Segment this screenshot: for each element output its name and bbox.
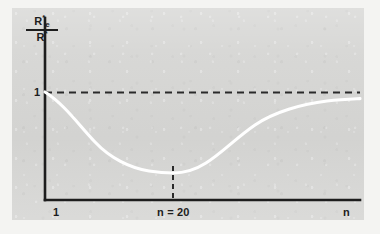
- figure-container: R*e R* 1 1 n = 20 n: [0, 0, 380, 234]
- plot-area: [12, 8, 364, 220]
- data-curve: [45, 92, 360, 173]
- plot-panel: R*e R* 1 1 n = 20 n: [12, 8, 364, 220]
